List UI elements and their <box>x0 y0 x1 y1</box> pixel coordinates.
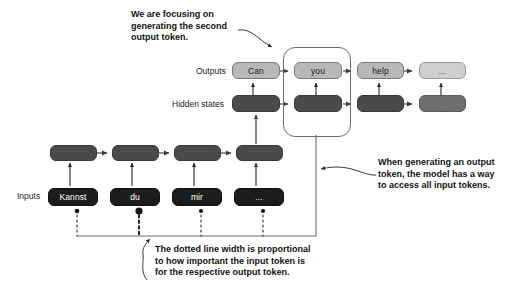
input-token-du[interactable]: du <box>110 188 160 206</box>
encoder-hidden-state-1[interactable] <box>50 145 97 161</box>
attention-dot-kannst <box>75 209 80 214</box>
attention-dotted-lines <box>77 215 263 236</box>
input-token-ellipsis[interactable]: ... <box>234 188 284 206</box>
focus-highlight-box <box>283 47 351 137</box>
decoder-hidden-state-1[interactable] <box>232 95 280 112</box>
row-label-hidden-states: Hidden states <box>172 99 224 109</box>
input-token-kannst[interactable]: Kannst <box>48 188 98 206</box>
callout-top: We are focusing on generating the second… <box>131 9 251 44</box>
input-token-mir[interactable]: mir <box>172 188 222 206</box>
row-label-outputs: Outputs <box>196 66 226 76</box>
output-token-help[interactable]: help <box>357 62 404 79</box>
decoder-hidden-state-4[interactable]: ... <box>419 95 466 112</box>
attention-weight-dots <box>75 207 265 214</box>
encoder-hidden-state-2[interactable] <box>112 145 159 161</box>
output-token-can[interactable]: Can <box>232 62 280 79</box>
decoder-hidden-state-2[interactable] <box>294 95 342 112</box>
output-token-you[interactable]: you <box>294 62 342 79</box>
callout-leader-bottom <box>143 239 150 280</box>
callout-leader-right <box>321 167 376 175</box>
attention-dot-mir <box>199 209 203 213</box>
output-token-ellipsis[interactable]: ... <box>419 62 466 79</box>
callout-bottom: The dotted line width is proportional to… <box>155 244 365 279</box>
encoder-hidden-state-3[interactable] <box>174 145 221 161</box>
encoder-vertical-arrows <box>70 163 256 186</box>
diagram-canvas: Outputs Hidden states Inputs Can you hel… <box>0 0 508 303</box>
callout-right: When generating an output token, the mod… <box>378 157 506 192</box>
attention-dot-du <box>135 207 142 214</box>
attention-dot-ellipsis <box>261 209 265 213</box>
decoder-hidden-state-3[interactable] <box>357 95 404 112</box>
row-label-inputs: Inputs <box>17 191 40 201</box>
encoder-hidden-state-4[interactable] <box>236 145 283 161</box>
